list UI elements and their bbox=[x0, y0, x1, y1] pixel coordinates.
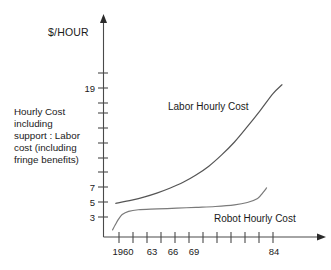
x-tick-label-84: 84 bbox=[269, 246, 280, 257]
chart-canvas: 19 7 5 3 1960 63 66 69 84 $/HOUR Ho bbox=[0, 0, 331, 270]
x-tick-label-69: 69 bbox=[189, 246, 200, 257]
chart-figure: 19 7 5 3 1960 63 66 69 84 $/HOUR Ho bbox=[0, 0, 331, 270]
y-tick-label-5: 5 bbox=[90, 197, 95, 208]
y-tick-label-19: 19 bbox=[84, 83, 95, 94]
desc-line-2: including bbox=[14, 118, 53, 129]
desc-line-4: cost (including bbox=[14, 142, 77, 153]
x-tick-label-63: 63 bbox=[147, 246, 158, 257]
desc-line-3: support : Labor bbox=[14, 130, 81, 141]
y-axis-arrow-icon bbox=[100, 14, 107, 23]
labor-series-label: Labor Hourly Cost bbox=[168, 101, 249, 112]
chart-title: $/HOUR bbox=[48, 26, 89, 38]
y-tick-label-3: 3 bbox=[90, 212, 95, 223]
desc-line-5: fringe benefits) bbox=[14, 154, 79, 165]
x-axis-arrow-icon bbox=[317, 234, 326, 241]
axis-description-block: Hourly Cost including support : Labor co… bbox=[14, 106, 81, 165]
robot-series-label: Robot Hourly Cost bbox=[214, 213, 296, 224]
y-tick-label-7: 7 bbox=[90, 182, 95, 193]
x-tick-label-66: 66 bbox=[168, 246, 179, 257]
x-tick-label-1960: 1960 bbox=[112, 246, 133, 257]
desc-line-1: Hourly Cost bbox=[14, 106, 65, 117]
